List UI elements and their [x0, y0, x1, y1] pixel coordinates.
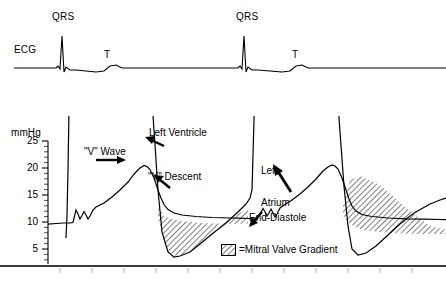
left-atrium-label-line2: Atrium	[261, 198, 290, 209]
ecg-trace	[14, 36, 446, 72]
y-tick-label-15: 15	[18, 189, 38, 200]
pressure-plot	[0, 10, 446, 273]
legend-hatch-swatch	[221, 244, 236, 256]
y-descent-label: "Y" Descent	[148, 172, 201, 183]
y-tick-label-10: 10	[18, 216, 38, 227]
end-diastole-label: End-Diastole	[249, 213, 306, 224]
y-axis-minor-ticks	[44, 146, 48, 259]
v-wave-label: "V" Wave	[84, 147, 126, 158]
cardiac-pressure-tracing-figure: ECG QRS T QRS T mmHg 25 20 15 10 5 "V" W…	[0, 0, 446, 284]
ecg-channel-label: ECG	[14, 45, 36, 56]
ecg-t-label-beat2: T	[292, 50, 298, 61]
ecg-qrs-label-beat2: QRS	[236, 12, 258, 23]
y-tick-label-20: 20	[18, 162, 38, 173]
time-ticks	[60, 268, 412, 273]
left-ventricle-label: Left Ventricle	[149, 128, 207, 139]
y-tick-label-25: 25	[18, 135, 38, 146]
ecg-t-label-beat1: T	[104, 50, 110, 61]
left-atrium-label-line1: Left	[261, 166, 290, 177]
ecg-qrs-label-beat1: QRS	[52, 12, 74, 23]
tracing-canvas	[0, 0, 446, 284]
legend-label: =Mitral Valve Gradient	[239, 245, 337, 256]
y-tick-label-5: 5	[18, 243, 38, 254]
